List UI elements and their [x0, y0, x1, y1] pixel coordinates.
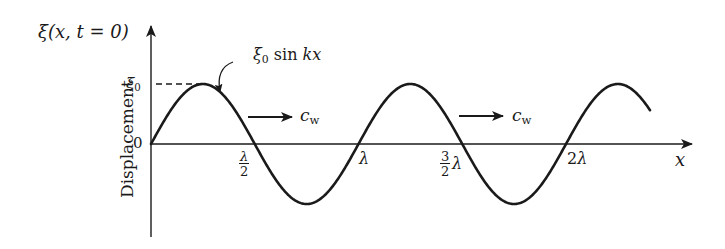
x-axis-label: x: [675, 151, 685, 169]
x-tick-three-halves-lambda: 3 2 λ: [440, 150, 480, 180]
velocity-label-2: cw: [512, 107, 531, 126]
curve-pointer-arrow: [219, 62, 233, 92]
curve-label: ξ0 sin kx: [253, 47, 321, 66]
function-label: ξ(x, t = 0): [38, 23, 129, 41]
x-tick-two-lambda: 2λ: [567, 151, 587, 167]
amplitude-label: ξ0: [126, 76, 141, 93]
origin-label: 0: [133, 136, 143, 151]
x-tick-lambda: λ: [359, 151, 369, 167]
velocity-label-1: cw: [300, 107, 319, 126]
x-tick-half-lambda: λ 2: [239, 150, 249, 178]
